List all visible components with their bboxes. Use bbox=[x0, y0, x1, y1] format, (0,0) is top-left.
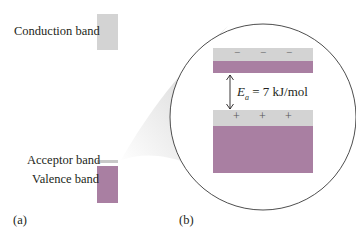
panel-b-label: (b) bbox=[179, 213, 194, 228]
energy-value: = 7 kJ/mol bbox=[249, 84, 308, 99]
panel-a-label: (a) bbox=[13, 213, 27, 228]
positive-charge: + bbox=[259, 109, 266, 124]
energy-symbol: E bbox=[237, 84, 245, 99]
negative-charge: − bbox=[234, 46, 240, 58]
negative-charge: − bbox=[260, 46, 266, 58]
activation-energy-label: Ea = 7 kJ/mol bbox=[237, 84, 308, 102]
conduction-band-label: Conduction band bbox=[14, 24, 100, 39]
valence-top-zoomed bbox=[213, 61, 313, 73]
negative-charge: − bbox=[286, 46, 292, 58]
lower-purple-band bbox=[213, 126, 313, 173]
positive-charge: + bbox=[233, 109, 240, 124]
conduction-band bbox=[97, 14, 118, 50]
acceptor-band-label: Acceptor band bbox=[27, 153, 100, 168]
positive-charge: + bbox=[285, 109, 292, 124]
valence-band-label: Valence band bbox=[32, 172, 99, 187]
valence-band bbox=[97, 166, 118, 203]
